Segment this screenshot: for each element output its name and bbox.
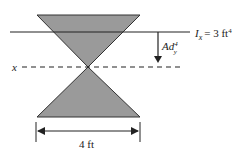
dimension-arrow-left-icon (37, 127, 45, 135)
top-triangle (37, 15, 140, 67)
moment-label: Ix= 3 ft4 (194, 27, 232, 42)
diagram-svg: Ix= 3 ft4 Ad4y x 4 ft (0, 0, 246, 155)
bottom-triangle (37, 67, 140, 117)
transfer-label: Ad4y (161, 40, 178, 56)
dimension-label: 4 ft (79, 138, 94, 150)
diagram: Ix= 3 ft4 Ad4y x 4 ft (0, 0, 246, 155)
dimension-arrow-right-icon (131, 127, 139, 135)
transfer-arrow-head-icon (154, 56, 162, 63)
axis-label: x (11, 61, 17, 73)
